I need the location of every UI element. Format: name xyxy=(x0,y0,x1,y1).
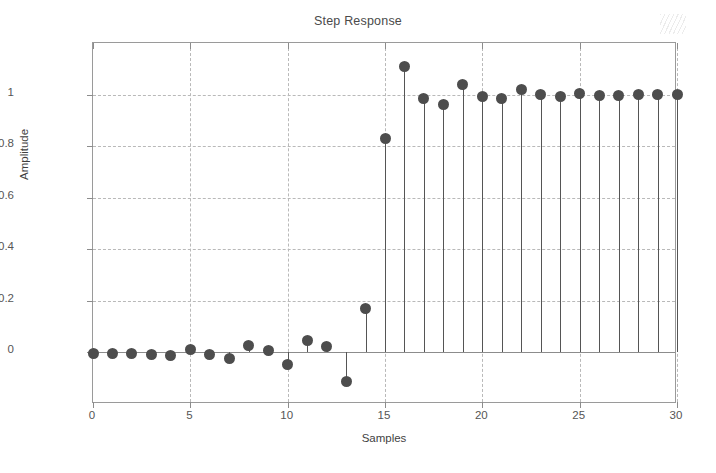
y-tick-mark xyxy=(87,249,93,250)
y-tick-mark xyxy=(87,146,93,147)
x-tick-label: 0 xyxy=(89,409,95,421)
chart-title: Step Response xyxy=(0,14,716,28)
step-response-figure: Step Response 00.20.40.60.81 05101520253… xyxy=(0,0,716,473)
y-tick-label: 0 xyxy=(8,343,14,355)
data-point-marker xyxy=(496,93,507,104)
data-stem xyxy=(638,95,639,353)
x-tick-label: 15 xyxy=(378,409,391,421)
gridline-horizontal xyxy=(93,301,675,302)
data-point-marker xyxy=(613,90,624,101)
x-tick-mark xyxy=(288,402,289,408)
data-point-marker xyxy=(302,335,313,346)
data-stem xyxy=(541,95,542,353)
data-point-marker xyxy=(457,79,468,90)
data-point-marker xyxy=(185,344,196,355)
data-point-marker xyxy=(360,303,371,314)
y-tick-mark xyxy=(87,301,93,302)
x-tick-label: 25 xyxy=(572,409,585,421)
data-point-marker xyxy=(321,341,332,352)
x-tick-mark-top xyxy=(580,43,581,49)
data-stem xyxy=(521,90,522,352)
x-tick-mark xyxy=(482,402,483,408)
x-axis-title: Samples xyxy=(92,432,676,444)
gridline-horizontal xyxy=(93,95,675,96)
data-point-marker xyxy=(243,340,254,351)
data-point-marker xyxy=(165,350,176,361)
x-tick-label: 20 xyxy=(475,409,488,421)
x-tick-label: 10 xyxy=(280,409,293,421)
data-point-marker xyxy=(535,89,546,100)
data-stem xyxy=(424,99,425,352)
data-stem xyxy=(560,96,561,352)
x-tick-mark xyxy=(190,402,191,408)
x-tick-label: 5 xyxy=(186,409,192,421)
data-point-marker xyxy=(652,89,663,100)
scan-artifact xyxy=(660,14,686,34)
data-stem xyxy=(599,95,600,352)
x-tick-mark-top xyxy=(385,43,386,49)
gridline-horizontal xyxy=(93,146,675,147)
x-tick-mark xyxy=(93,402,94,408)
zero-baseline xyxy=(93,352,675,353)
data-stem xyxy=(502,98,503,352)
data-point-marker xyxy=(418,93,429,104)
plot-area xyxy=(92,42,676,403)
y-tick-mark xyxy=(87,95,93,96)
y-tick-label: 0.4 xyxy=(0,240,14,252)
x-tick-mark xyxy=(677,402,678,408)
data-stem xyxy=(677,95,678,353)
data-point-marker xyxy=(88,348,99,359)
y-tick-label: 0.6 xyxy=(0,189,14,201)
gridline-horizontal xyxy=(93,249,675,250)
data-stem xyxy=(443,104,444,352)
data-stem xyxy=(619,95,620,352)
data-stem xyxy=(385,138,386,352)
y-tick-label: 0.8 xyxy=(0,137,14,149)
data-stem xyxy=(658,95,659,353)
data-point-marker xyxy=(224,353,235,364)
data-point-marker xyxy=(107,348,118,359)
data-point-marker xyxy=(574,88,585,99)
data-point-marker xyxy=(633,89,644,100)
data-point-marker xyxy=(672,89,683,100)
data-point-marker xyxy=(341,376,352,387)
x-tick-mark xyxy=(385,402,386,408)
data-point-marker xyxy=(555,91,566,102)
data-stem xyxy=(580,93,581,352)
data-point-marker xyxy=(146,349,157,360)
data-point-marker xyxy=(594,90,605,101)
data-stem xyxy=(366,309,367,353)
data-stem xyxy=(463,84,464,352)
data-point-marker xyxy=(126,348,137,359)
data-point-marker xyxy=(380,133,391,144)
data-point-marker xyxy=(263,345,274,356)
x-tick-mark-top xyxy=(482,43,483,49)
x-tick-label: 30 xyxy=(670,409,683,421)
data-point-marker xyxy=(282,359,293,370)
y-tick-mark xyxy=(87,198,93,199)
x-tick-mark-top xyxy=(93,43,94,49)
data-point-marker xyxy=(399,61,410,72)
gridline-horizontal xyxy=(93,198,675,199)
x-tick-mark-top xyxy=(190,43,191,49)
gridline-vertical xyxy=(288,43,289,402)
data-point-marker xyxy=(204,349,215,360)
x-tick-mark-top xyxy=(677,43,678,49)
x-tick-mark xyxy=(580,402,581,408)
x-tick-mark-top xyxy=(288,43,289,49)
y-tick-label: 1 xyxy=(8,86,14,98)
data-stem xyxy=(482,96,483,352)
y-tick-label: 0.2 xyxy=(0,292,14,304)
data-stem xyxy=(404,66,405,352)
y-axis-title: Amplitude xyxy=(18,129,30,180)
data-point-marker xyxy=(438,99,449,110)
data-point-marker xyxy=(477,91,488,102)
